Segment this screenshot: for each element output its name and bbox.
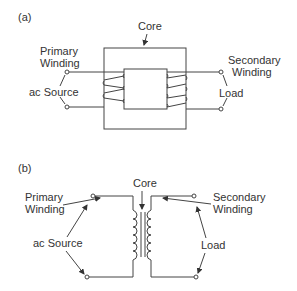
panel-b-secondary-label-1: Secondary	[213, 191, 266, 203]
panel-b-primary-label-2: Winding	[25, 203, 65, 215]
primary-terminal-bottom	[85, 275, 89, 279]
transformer-diagram: (a) Core Primary Winding ac Source	[0, 0, 297, 291]
secondary-terminal-top	[192, 194, 196, 198]
core-window	[124, 69, 167, 109]
panel-b-secondary-label-2: Winding	[213, 203, 253, 215]
primary-terminal-top	[65, 70, 69, 74]
primary-terminal-top	[91, 194, 95, 198]
panel-b-core-label: Core	[133, 177, 157, 189]
secondary-coil	[147, 194, 198, 279]
panel-a-primary-label-2: Winding	[40, 57, 80, 69]
secondary-terminal-bottom	[219, 107, 223, 111]
panel-a-source-label: ac Source	[29, 86, 79, 98]
panel-a-secondary-label-1: Secondary	[228, 54, 281, 66]
core-arrow-icon	[144, 34, 147, 45]
panel-b-label: (b)	[18, 162, 31, 174]
panel-a-label: (a)	[18, 11, 31, 23]
primary-coil	[85, 194, 137, 279]
secondary-terminal-bottom	[194, 275, 198, 279]
primary-terminal-bottom	[65, 105, 69, 109]
core-outer	[104, 48, 186, 129]
panel-b-primary-label-1: Primary	[25, 191, 63, 203]
panel-a: (a) Core Primary Winding ac Source	[18, 11, 281, 129]
panel-a-primary-label-1: Primary	[40, 45, 78, 57]
panel-a-core-label: Core	[138, 20, 162, 32]
panel-b-load-label: Load	[201, 239, 225, 251]
panel-a-load-label: Load	[219, 87, 243, 99]
panel-b-source-label: ac Source	[33, 237, 83, 249]
panel-a-secondary-label-2: Winding	[232, 66, 272, 78]
secondary-terminal-top	[219, 70, 223, 74]
secondary-winding	[167, 70, 227, 111]
panel-b: (b) Core Primary Winding ac Source Secon…	[18, 162, 266, 279]
